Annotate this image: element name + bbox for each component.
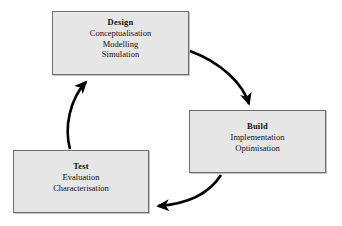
node-test[interactable]: Test Evaluation Characterisation bbox=[13, 150, 149, 213]
node-design[interactable]: Design Conceptualisation Modelling Simul… bbox=[52, 11, 189, 75]
arrow-design-to-build bbox=[190, 51, 249, 104]
node-build-title: Build bbox=[247, 121, 268, 132]
node-build-line-1: Implementation bbox=[231, 132, 285, 143]
node-design-line-3: Simulation bbox=[102, 49, 139, 60]
node-design-title: Design bbox=[108, 17, 134, 28]
node-design-line-1: Conceptualisation bbox=[90, 28, 151, 39]
node-design-line-2: Modelling bbox=[103, 39, 138, 50]
arrow-test-to-design bbox=[68, 82, 86, 149]
node-build-line-2: Optimisation bbox=[235, 143, 279, 154]
node-build[interactable]: Build Implementation Optimisation bbox=[189, 110, 326, 173]
node-test-line-2: Characterisation bbox=[53, 183, 109, 194]
process-cycle-diagram: Design Conceptualisation Modelling Simul… bbox=[0, 0, 342, 226]
node-test-title: Test bbox=[73, 161, 89, 172]
arrow-build-to-test bbox=[158, 175, 221, 206]
node-test-line-1: Evaluation bbox=[63, 172, 100, 183]
